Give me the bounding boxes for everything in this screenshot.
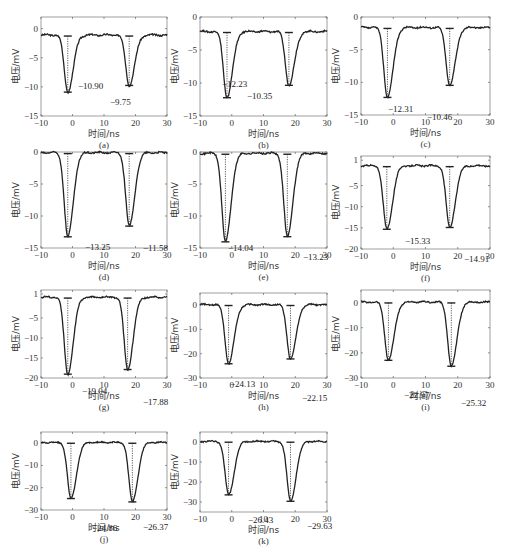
plot-frame [200, 432, 327, 512]
y-tick-label: −30 [183, 497, 198, 507]
y-tick-label: 0 [193, 437, 198, 447]
x-tick-label: 20 [291, 514, 301, 524]
waveform-line [200, 440, 327, 501]
peak-value-annotation: −29.63 [307, 521, 333, 531]
x-tick-label: −10 [193, 514, 208, 524]
x-axis-label: 时间/ns [248, 524, 280, 535]
peak-value-annotation: −26.43 [248, 515, 274, 525]
y-axis-label: 电压/mV [169, 453, 180, 490]
panel-caption: (k) [258, 536, 269, 546]
y-tick-label: −10 [183, 457, 198, 467]
y-tick-label: −20 [183, 477, 198, 487]
x-tick-label: 0 [230, 514, 235, 524]
